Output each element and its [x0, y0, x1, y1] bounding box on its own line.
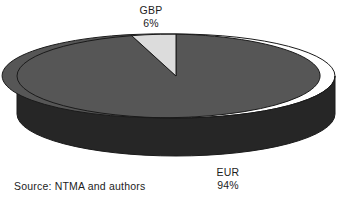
- pie-chart-figure: GBP 6% EUR 94% Source: NTMA and authors: [0, 0, 351, 203]
- slice-label-gbp-name: GBP: [115, 4, 187, 17]
- source-note: Source: NTMA and authors: [14, 180, 145, 193]
- pie-chart-graphic: [0, 0, 351, 203]
- slice-label-eur-value: 94%: [192, 179, 264, 192]
- slice-label-gbp-value: 6%: [115, 17, 187, 30]
- slice-label-eur-name: EUR: [192, 166, 264, 179]
- slice-label-gbp: GBP 6%: [115, 4, 187, 30]
- slice-label-eur: EUR 94%: [192, 166, 264, 192]
